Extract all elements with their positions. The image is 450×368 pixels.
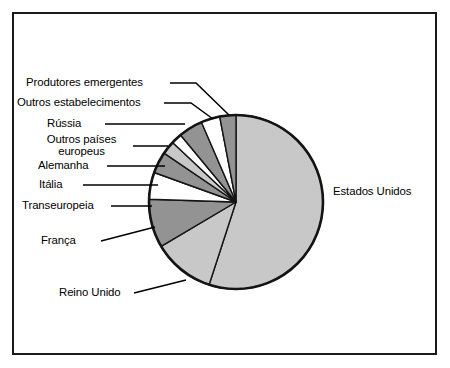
slice-label-outros-paises-europeus: Outros países europeus [34,134,129,158]
slice-label-franca: França [41,235,76,247]
slice-label-outros-estabelecimentos: Outros estabelecimentos [17,97,141,109]
leader-produtores-emergentes [170,83,229,115]
slice-label-transeuropeia: Transeuropeia [22,200,94,212]
pie-chart: Produtores emergentes Outros estabelecim… [0,0,450,368]
slice-label-reino-unido: Reino Unido [59,287,121,299]
leader-franca [101,227,155,241]
leader-reino-unido [134,280,186,293]
slice-label-italia: Itália [39,179,62,191]
slice-label-alemanha: Alemanha [38,160,89,172]
slice-label-estados-unidos: Estados Unidos [333,186,411,198]
pie-svg [0,0,450,368]
pie-slices [149,115,323,289]
slice-label-russia: Rússia [47,118,81,130]
slice-label-produtores-emergentes: Produtores emergentes [26,77,143,89]
leader-outros-estabelecimentos [164,103,213,119]
